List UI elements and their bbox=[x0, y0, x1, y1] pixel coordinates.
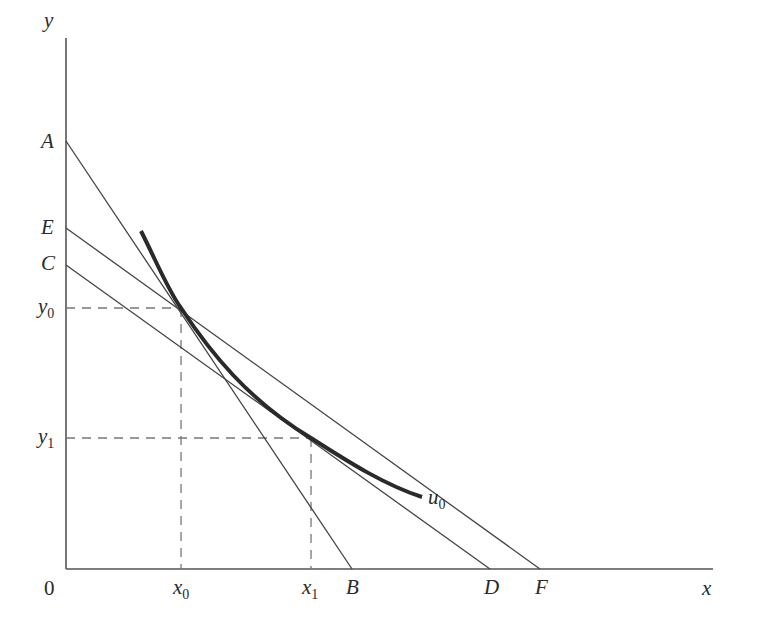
budget-line-EF bbox=[66, 228, 540, 569]
label-u0-sub: 0 bbox=[439, 497, 446, 512]
label-u0: u0 bbox=[428, 487, 446, 512]
label-B: B bbox=[346, 577, 359, 598]
label-y0-main: y bbox=[38, 294, 47, 318]
label-y1-sub: 1 bbox=[47, 436, 54, 451]
budget-line-AB bbox=[66, 141, 352, 569]
label-x1-sub: 1 bbox=[311, 587, 318, 602]
label-C: C bbox=[41, 253, 55, 274]
label-y0: y0 bbox=[38, 296, 54, 321]
label-x0-sub: 0 bbox=[182, 587, 189, 602]
diagram-canvas bbox=[0, 0, 758, 640]
label-y0-sub: 0 bbox=[47, 306, 54, 321]
origin-label: 0 bbox=[44, 578, 55, 599]
label-D: D bbox=[484, 577, 499, 598]
label-x0: x0 bbox=[173, 577, 189, 602]
label-x0-main: x bbox=[173, 575, 182, 599]
indifference-curve-u0 bbox=[141, 231, 422, 497]
label-y1-main: y bbox=[38, 424, 47, 448]
y-axis-label: y bbox=[44, 10, 53, 31]
label-x1: x1 bbox=[302, 577, 318, 602]
label-u0-main: u bbox=[428, 485, 439, 509]
label-A: A bbox=[41, 131, 54, 152]
label-E: E bbox=[41, 217, 54, 238]
dashed-guides bbox=[66, 308, 311, 569]
label-x1-main: x bbox=[302, 575, 311, 599]
label-y1: y1 bbox=[38, 426, 54, 451]
x-axis-label: x bbox=[702, 578, 711, 599]
label-F: F bbox=[535, 577, 548, 598]
